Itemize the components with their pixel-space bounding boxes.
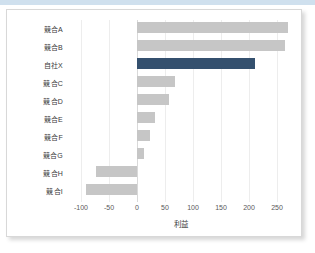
gridline-neg100 [81,20,82,202]
bar-2 [137,58,255,69]
category-label-5: 競合E [11,114,63,124]
bar-8 [96,166,137,177]
bar-6 [137,130,150,141]
xtick-label-2: 0 [122,204,152,211]
bar-0 [137,22,288,33]
xtick-label-1: -50 [94,204,124,211]
x-axis-title: 利益 [7,218,303,229]
bar-4 [137,94,169,105]
category-label-3: 競合C [11,78,63,88]
category-label-6: 競合F [11,132,63,142]
bar-1 [137,40,285,51]
bar-3 [137,76,175,87]
category-label-9: 競合I [11,186,63,196]
category-label-7: 競合G [11,150,63,160]
xtick-label-5: 150 [206,204,236,211]
x-axis-title-text: 利益 [174,220,188,229]
category-label-2: 自社X [11,60,63,70]
bar-7 [137,148,144,159]
category-label-8: 競合H [11,168,63,178]
bar-chart-plot-area: 競合A 競合B 自社X 競合C 競合D 競合E 競合F 競合G 競合H 競合I … [7,10,303,238]
xtick-label-4: 100 [178,204,208,211]
top-accent-strip [0,0,315,5]
category-label-1: 競合B [11,42,63,52]
bar-5 [137,112,155,123]
xtick-label-7: 250 [262,204,292,211]
xtick-label-3: 50 [150,204,180,211]
xtick-label-6: 200 [234,204,264,211]
xtick-label-0: -100 [66,204,96,211]
category-label-4: 競合D [11,96,63,106]
bar-9 [86,184,137,195]
chart-card: 競合A 競合B 自社X 競合C 競合D 競合E 競合F 競合G 競合H 競合I … [6,9,302,237]
category-label-0: 競合A [11,24,63,34]
